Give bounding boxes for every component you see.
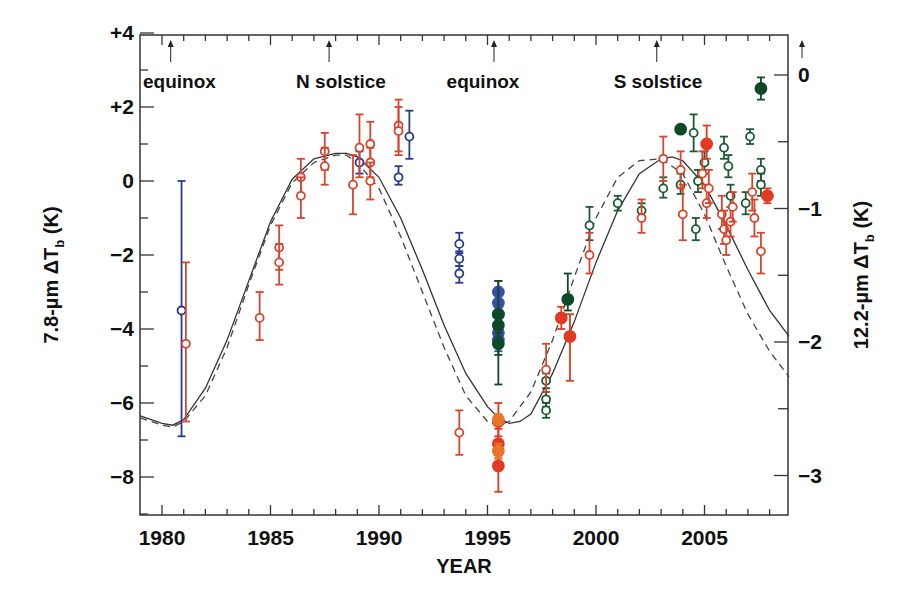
- data-point: [729, 203, 737, 211]
- data-point: [675, 124, 686, 135]
- data-point: [757, 166, 765, 174]
- data-point: [455, 255, 463, 263]
- data-point: [562, 294, 573, 305]
- x-tick-label: 2005: [681, 526, 728, 549]
- data-point: [493, 414, 504, 425]
- data-point: [746, 133, 754, 141]
- y-right-tick-label: −2: [798, 330, 822, 353]
- season-annotations: equinoxN solsticeequinoxS solstice: [143, 40, 702, 92]
- y-right-tick-label: −1: [798, 197, 822, 220]
- data-point: [659, 155, 667, 163]
- data-point: [755, 83, 766, 94]
- y-right-tick-label: 0: [798, 63, 810, 86]
- x-tick-label: 1990: [356, 526, 403, 549]
- data-point: [455, 270, 463, 278]
- data-point: [750, 214, 758, 222]
- data-point: [585, 251, 593, 259]
- data-point: [757, 247, 765, 255]
- data-point: [405, 133, 413, 141]
- y-tick-label: −4: [110, 317, 134, 340]
- data-point: [690, 129, 698, 137]
- model-curves: [140, 153, 789, 427]
- model-solid-curve: [140, 153, 789, 425]
- data-point: [395, 173, 403, 181]
- season-label: equinox: [447, 71, 520, 92]
- plot-frame: [140, 35, 788, 515]
- data-point: [542, 366, 550, 374]
- y-axis-right-ticks: 0−1−2−3: [774, 40, 822, 487]
- data-point: [493, 460, 504, 471]
- x-tick-label: 1995: [464, 526, 511, 549]
- x-axis-ticks: 198019851990199520002005: [139, 35, 770, 549]
- data-point: [542, 395, 550, 403]
- data-points: [178, 77, 773, 491]
- data-point: [638, 214, 646, 222]
- data-point: [182, 340, 190, 348]
- series-red-filled: [493, 126, 773, 492]
- data-point: [493, 446, 504, 457]
- data-point: [366, 177, 374, 185]
- y-axis-left-ticks: +4+20−2−4−6−8: [110, 21, 154, 514]
- data-point: [493, 338, 504, 349]
- data-point: [349, 181, 357, 189]
- data-point: [762, 190, 773, 201]
- data-point: [724, 162, 732, 170]
- data-point: [256, 314, 264, 322]
- season-label: N solstice: [296, 71, 386, 92]
- data-point: [698, 170, 706, 178]
- data-point: [275, 258, 283, 266]
- y-tick-label: −2: [110, 243, 134, 266]
- data-point: [677, 166, 685, 174]
- y-tick-label: +2: [110, 95, 134, 118]
- data-point: [564, 331, 575, 342]
- x-tick-label: 2000: [573, 526, 620, 549]
- data-point: [455, 240, 463, 248]
- data-point: [614, 199, 622, 207]
- model-dashed-curve: [140, 155, 789, 427]
- data-point: [659, 184, 667, 192]
- season-label: equinox: [143, 71, 216, 92]
- data-point: [705, 184, 713, 192]
- data-point: [395, 127, 403, 135]
- data-point: [748, 188, 756, 196]
- data-point: [542, 406, 550, 414]
- y-tick-label: +4: [110, 21, 134, 44]
- season-label: S solstice: [614, 71, 703, 92]
- data-point: [556, 312, 567, 323]
- data-point: [297, 192, 305, 200]
- y-right-tick-label: −3: [798, 464, 822, 487]
- data-point: [455, 429, 463, 437]
- data-point: [742, 199, 750, 207]
- data-point: [321, 162, 329, 170]
- series-red-open: [182, 100, 765, 455]
- y-tick-label: 0: [122, 169, 134, 192]
- x-tick-label: 1980: [139, 526, 186, 549]
- data-point: [679, 210, 687, 218]
- series-blue-open: [178, 111, 464, 437]
- y-axis-left-title: 7.8-µm ΔTb (K): [40, 206, 67, 343]
- data-point: [178, 307, 186, 315]
- data-point: [692, 225, 700, 233]
- y-tick-label: −8: [110, 465, 134, 488]
- data-point: [585, 221, 593, 229]
- y-axis-right-title: 12.2-µm ΔTb (K): [850, 201, 877, 349]
- data-point: [701, 139, 712, 150]
- data-point: [493, 320, 504, 331]
- data-point: [720, 144, 728, 152]
- x-axis-title: YEAR: [436, 555, 492, 577]
- y-tick-label: −6: [110, 391, 134, 414]
- chart-canvas: 198019851990199520002005 +4+20−2−4−6−8 0…: [0, 0, 918, 593]
- x-tick-label: 1985: [247, 526, 294, 549]
- data-point: [355, 144, 363, 152]
